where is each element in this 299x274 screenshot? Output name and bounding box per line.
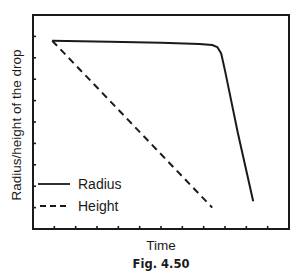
figure-caption: Fig. 4.50 [133, 257, 190, 271]
legend: Radius Height [38, 176, 122, 214]
plot-frame [33, 15, 289, 229]
y-axis-label: Radius/height of the drop [9, 50, 24, 201]
legend-label-height: Height [78, 198, 119, 214]
series-line-height [52, 41, 212, 208]
legend-label-radius: Radius [78, 176, 122, 192]
x-axis-label: Time [146, 238, 176, 253]
chart: Radius/height of the drop Time Fig. 4.50… [0, 0, 299, 274]
